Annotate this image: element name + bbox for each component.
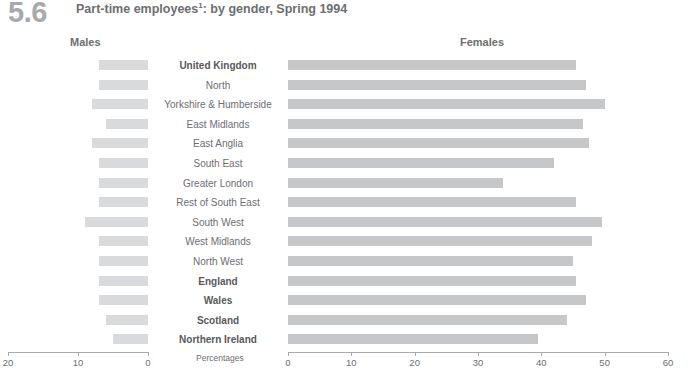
male-bar <box>99 158 148 168</box>
axis-tick <box>78 352 79 356</box>
category-label: West Midlands <box>148 232 288 252</box>
figure-title-main: Part-time employees <box>76 2 198 16</box>
chart-row: Greater London <box>0 174 690 194</box>
female-bar-cell <box>288 193 668 213</box>
category-label: Greater London <box>148 174 288 194</box>
female-bar-cell <box>288 311 668 331</box>
male-bar-cell <box>8 95 148 115</box>
male-bar <box>99 60 148 70</box>
chart-row: South West <box>0 213 690 233</box>
female-bar <box>288 99 605 109</box>
male-bar-cell <box>8 193 148 213</box>
axis-tick-label: 10 <box>346 357 357 368</box>
category-label: Yorkshire & Humberside <box>148 95 288 115</box>
female-bar <box>288 158 554 168</box>
male-bar <box>85 217 148 227</box>
male-bar <box>99 236 148 246</box>
male-bar <box>92 99 148 109</box>
male-bar-cell <box>8 213 148 233</box>
male-bar-cell <box>8 134 148 154</box>
category-label: Wales <box>148 291 288 311</box>
axis-tick <box>351 352 352 356</box>
axis-tick-label: 50 <box>599 357 610 368</box>
female-bar <box>288 80 586 90</box>
male-bar-cell <box>8 115 148 135</box>
male-bar-cell <box>8 174 148 194</box>
figure-number: 5.6 <box>8 0 47 29</box>
female-bar-cell <box>288 95 668 115</box>
axis-tick-label: 0 <box>145 357 150 368</box>
male-bar <box>99 197 148 207</box>
male-bar <box>106 119 148 129</box>
axis-tick-label: 20 <box>409 357 420 368</box>
male-bar-cell <box>8 76 148 96</box>
category-label: South West <box>148 213 288 233</box>
male-bar-cell <box>8 154 148 174</box>
female-bar-cell <box>288 272 668 292</box>
category-label: East Midlands <box>148 115 288 135</box>
female-bar-cell <box>288 213 668 233</box>
male-bar <box>99 80 148 90</box>
chart-row: East Anglia <box>0 134 690 154</box>
female-bar <box>288 315 567 325</box>
female-bar <box>288 178 503 188</box>
axis-tick <box>478 352 479 356</box>
chart-row: England <box>0 272 690 292</box>
female-bar-cell <box>288 252 668 272</box>
male-bar-cell <box>8 56 148 76</box>
chart-axes: 201000102030405060 <box>0 352 690 372</box>
female-bar <box>288 119 583 129</box>
male-bar-cell <box>8 311 148 331</box>
female-bar <box>288 138 589 148</box>
category-label: East Anglia <box>148 134 288 154</box>
category-label: North <box>148 76 288 96</box>
female-bar-cell <box>288 291 668 311</box>
chart-row: Rest of South East <box>0 193 690 213</box>
female-bar <box>288 60 576 70</box>
axis-tick <box>541 352 542 356</box>
figure-title-rest: : by gender, Spring 1994 <box>203 2 348 16</box>
chart-row: South East <box>0 154 690 174</box>
axis-tick-label: 40 <box>536 357 547 368</box>
axis-tick-label: 10 <box>73 357 84 368</box>
chart-row: North West <box>0 252 690 272</box>
axis-tick <box>288 352 289 356</box>
female-bar <box>288 295 586 305</box>
male-bar <box>92 138 148 148</box>
axis-tick <box>668 352 669 356</box>
category-label: South East <box>148 154 288 174</box>
axis-tick <box>8 352 9 356</box>
category-label: Rest of South East <box>148 193 288 213</box>
male-bar <box>99 256 148 266</box>
female-bar-cell <box>288 115 668 135</box>
chart-row: Wales <box>0 291 690 311</box>
female-bar <box>288 256 573 266</box>
chart-row: West Midlands <box>0 232 690 252</box>
category-label: Scotland <box>148 311 288 331</box>
chart-row: Northern Ireland <box>0 330 690 350</box>
chart-row: Yorkshire & Humberside <box>0 95 690 115</box>
males-column-heading: Males <box>70 36 101 48</box>
female-bar <box>288 197 576 207</box>
axis-tick <box>415 352 416 356</box>
male-bar-cell <box>8 252 148 272</box>
male-bar-cell <box>8 291 148 311</box>
female-bar-cell <box>288 76 668 96</box>
axis-tick <box>148 352 149 356</box>
category-label: Northern Ireland <box>148 330 288 350</box>
chart-row: United Kingdom <box>0 56 690 76</box>
male-bar <box>99 276 148 286</box>
percentages-label: Percentages <box>196 353 244 363</box>
female-bar-cell <box>288 134 668 154</box>
axis-tick-label: 20 <box>3 357 14 368</box>
figure-title: Part-time employees1: by gender, Spring … <box>76 1 347 16</box>
female-bar <box>288 236 592 246</box>
female-bar <box>288 217 602 227</box>
female-bar-cell <box>288 232 668 252</box>
male-bar-cell <box>8 330 148 350</box>
axis-tick <box>605 352 606 356</box>
females-column-heading: Females <box>460 36 504 48</box>
female-bar <box>288 334 538 344</box>
chart-row: Scotland <box>0 311 690 331</box>
female-bar-cell <box>288 154 668 174</box>
